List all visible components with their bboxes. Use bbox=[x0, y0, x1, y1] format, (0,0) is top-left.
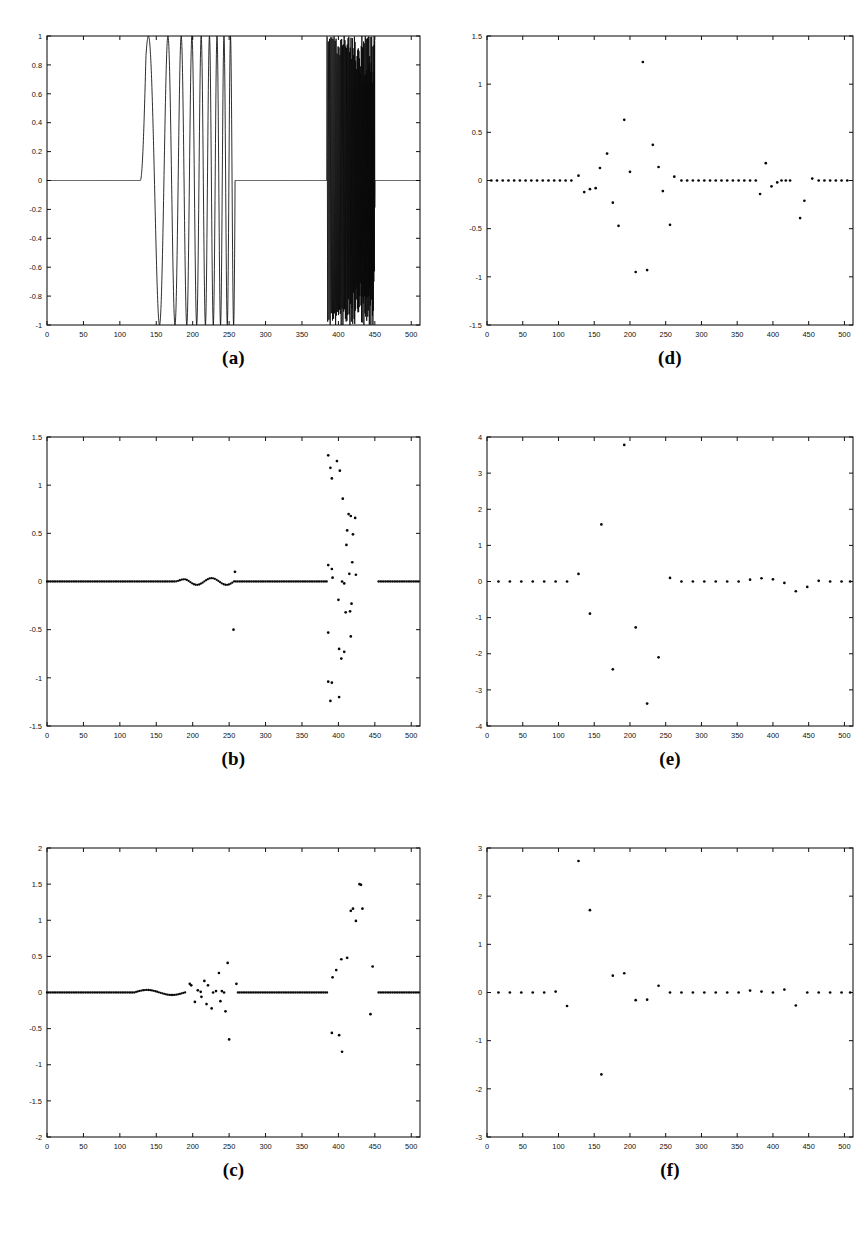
x-tick-label: 150 bbox=[588, 330, 600, 339]
x-tick-label: 400 bbox=[767, 330, 779, 339]
data-point bbox=[553, 179, 556, 182]
data-point bbox=[507, 179, 510, 182]
data-point bbox=[536, 179, 539, 182]
x-tick-label: 200 bbox=[187, 731, 199, 740]
y-tick-label: 0.5 bbox=[32, 529, 42, 538]
y-tick-label: -1 bbox=[35, 1060, 42, 1069]
data-point bbox=[754, 179, 757, 182]
x-tick-label: 450 bbox=[803, 1142, 815, 1151]
data-point bbox=[212, 991, 215, 994]
data-point bbox=[490, 179, 493, 182]
data-point bbox=[714, 580, 717, 583]
data-point bbox=[669, 991, 672, 994]
y-tick-label: 0.6 bbox=[32, 90, 42, 99]
x-tick-label: 50 bbox=[79, 1142, 87, 1151]
x-tick-label: 50 bbox=[519, 1142, 527, 1151]
data-point bbox=[360, 884, 363, 887]
data-point bbox=[737, 179, 740, 182]
x-tick-label: 350 bbox=[296, 1142, 308, 1151]
figure-six-subplots: 050100150200250300350400450500-1-0.8-0.6… bbox=[0, 0, 866, 1246]
y-tick-label: -0.5 bbox=[469, 224, 482, 233]
data-point bbox=[829, 991, 832, 994]
baseline-point bbox=[418, 991, 420, 993]
x-tick-label: 400 bbox=[332, 731, 344, 740]
data-point bbox=[190, 984, 193, 987]
data-point bbox=[811, 177, 814, 180]
x-tick-label: 450 bbox=[803, 330, 815, 339]
data-point bbox=[203, 980, 206, 983]
x-tick-label: 50 bbox=[519, 731, 527, 740]
data-point bbox=[207, 984, 210, 987]
x-tick-label: 250 bbox=[660, 330, 672, 339]
data-point bbox=[692, 580, 695, 583]
data-point bbox=[709, 179, 712, 182]
data-point bbox=[497, 580, 500, 583]
data-point bbox=[215, 990, 218, 993]
data-point bbox=[350, 602, 353, 605]
x-tick-label: 150 bbox=[588, 731, 600, 740]
data-point bbox=[327, 680, 330, 683]
data-point bbox=[783, 582, 786, 585]
data-point bbox=[817, 991, 820, 994]
data-point bbox=[554, 580, 557, 583]
data-point bbox=[840, 580, 843, 583]
y-tick-label: 0.5 bbox=[32, 952, 42, 961]
data-point bbox=[794, 590, 797, 593]
y-tick-label: 1.5 bbox=[32, 880, 42, 889]
data-point bbox=[339, 469, 342, 472]
data-point bbox=[524, 179, 527, 182]
data-point bbox=[840, 991, 843, 994]
data-point bbox=[817, 579, 820, 582]
x-tick-label: 450 bbox=[369, 330, 381, 339]
data-point bbox=[772, 578, 775, 581]
data-point bbox=[737, 580, 740, 583]
data-point bbox=[530, 179, 533, 182]
y-tick-label: 1 bbox=[38, 481, 42, 490]
data-point bbox=[331, 568, 334, 571]
data-point bbox=[680, 580, 683, 583]
x-tick-label: 0 bbox=[45, 330, 49, 339]
y-tick-label: -1 bbox=[475, 613, 482, 622]
x-tick-label: 100 bbox=[114, 330, 126, 339]
y-tick-label: 2 bbox=[38, 844, 42, 853]
data-point bbox=[349, 635, 352, 638]
data-point bbox=[749, 578, 752, 581]
y-tick-label: -3 bbox=[475, 686, 482, 695]
data-point bbox=[806, 991, 809, 994]
data-point bbox=[726, 991, 729, 994]
x-tick-label: 300 bbox=[259, 731, 271, 740]
data-point bbox=[606, 152, 609, 155]
y-tick-label: -2 bbox=[475, 649, 482, 658]
x-tick-label: 250 bbox=[223, 330, 235, 339]
data-point bbox=[509, 991, 512, 994]
data-point bbox=[336, 460, 339, 463]
data-point bbox=[335, 969, 338, 972]
baseline-point bbox=[418, 580, 420, 582]
x-tick-label: 500 bbox=[838, 731, 850, 740]
y-tick-label: -1.5 bbox=[469, 321, 482, 330]
data-point bbox=[344, 611, 347, 614]
data-point bbox=[235, 982, 238, 985]
y-tick-label: 0 bbox=[478, 988, 482, 997]
x-tick-label: 200 bbox=[187, 1142, 199, 1151]
y-tick-label: 0 bbox=[478, 176, 482, 185]
data-point bbox=[349, 515, 352, 518]
data-point bbox=[346, 956, 349, 959]
data-point bbox=[749, 989, 752, 992]
data-point bbox=[646, 998, 649, 1001]
x-tick-label: 0 bbox=[485, 330, 489, 339]
y-tick-label: 1.5 bbox=[472, 32, 482, 41]
data-point bbox=[714, 991, 717, 994]
data-point bbox=[776, 181, 779, 184]
data-point bbox=[543, 580, 546, 583]
data-point bbox=[228, 1038, 231, 1041]
data-point bbox=[513, 179, 516, 182]
data-point bbox=[331, 576, 334, 579]
data-point bbox=[520, 580, 523, 583]
data-point bbox=[589, 188, 592, 191]
y-tick-label: -0.5 bbox=[29, 625, 42, 634]
subplot-f: 050100150200250300350400450500-3-2-10123… bbox=[487, 848, 853, 1197]
data-point bbox=[351, 561, 354, 564]
data-point bbox=[662, 190, 665, 193]
data-point bbox=[657, 984, 660, 987]
